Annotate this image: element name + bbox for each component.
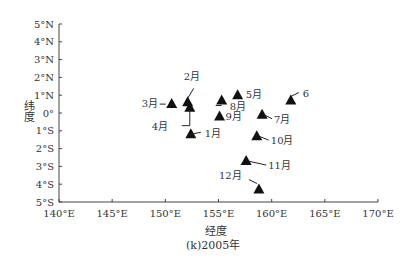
x-tick-label: 170°E [362,208,393,219]
y-tick-label: 5°S [36,197,54,208]
y-tick-label: 3°N [34,54,54,65]
point-label: 3月 [142,98,158,109]
x-tick-label: 165°E [309,208,340,219]
y-tick-label: 2°N [34,72,54,83]
point-label: 5月 [246,89,262,100]
triangle-marker [251,130,262,140]
triangle-marker [241,155,252,165]
y-tick-label: 0° [43,108,54,119]
point-label: 1月 [205,128,221,139]
point-label: 7月 [274,114,290,125]
triangle-marker [232,89,243,99]
y-tick-label: 1°S [36,125,54,136]
leader-line [188,88,194,98]
x-tick-label: 140°E [43,208,74,219]
point-label: 4月 [152,121,168,132]
point-label: 10月 [271,135,294,146]
y-tick-label: 4°N [34,36,54,47]
point-label: 9月 [226,111,242,122]
y-axis-label: 纬度 [20,100,36,122]
y-tick-label: 5°N [34,19,54,30]
chart-title: (k)2005年 [186,236,240,252]
triangle-marker [253,184,264,194]
x-tick-label: 145°E [96,208,127,219]
point-labels: 1月2月3月4月5月67月8月9月10月11月12月 [142,71,309,183]
point-label: 6 [303,88,309,99]
x-tick-label: 150°E [150,208,181,219]
axes: 5°N4°N3°N2°N1°N0°1°S2°S3°S4°S5°S140°E145… [34,19,394,220]
triangle-marker [166,98,177,108]
triangle-marker [216,95,227,105]
x-tick-label: 155°E [203,208,234,219]
point-label: 11月 [268,160,291,171]
triangle-marker [214,111,225,121]
point-label: 2月 [184,71,200,82]
leader-line [291,93,299,97]
triangle-marker [257,109,268,119]
y-tick-label: 4°S [36,179,54,190]
leader-line [182,110,190,126]
leader-line [249,180,257,184]
y-tick-label: 3°S [36,161,54,172]
x-tick-label: 160°E [256,208,287,219]
y-tick-label: 1°N [34,90,54,101]
y-tick-label: 2°S [36,143,54,154]
point-label: 12月 [219,170,242,181]
